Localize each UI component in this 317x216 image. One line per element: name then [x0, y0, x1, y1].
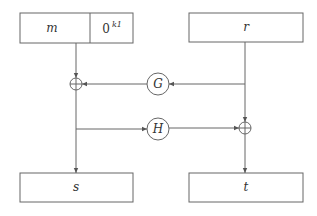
label-m: m — [46, 21, 57, 35]
label-g: G — [153, 77, 163, 91]
label-t: t — [244, 180, 249, 194]
label-s: s — [73, 180, 79, 194]
diagram-canvas: m 0 k1 r G H s t — [0, 0, 317, 216]
label-r: r — [243, 20, 250, 34]
oaep-diagram: m 0 k1 r G H s t — [0, 0, 317, 216]
label-h: H — [152, 122, 164, 136]
label-zero-pad: 0 — [102, 22, 110, 36]
label-zero-pad-exponent: k1 — [112, 20, 122, 29]
